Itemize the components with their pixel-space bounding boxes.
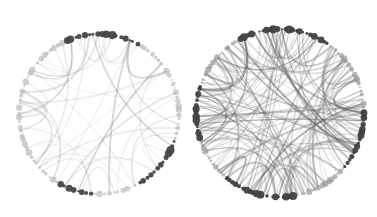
node (275, 26, 281, 32)
node (19, 99, 22, 102)
node (201, 144, 205, 148)
node (16, 105, 22, 111)
node (334, 48, 338, 52)
node (77, 190, 79, 192)
node (176, 107, 182, 113)
node (16, 114, 22, 120)
node (146, 176, 150, 180)
node (84, 191, 88, 195)
node (130, 186, 132, 188)
node (313, 188, 317, 192)
node (219, 53, 221, 55)
node (195, 98, 199, 102)
edge (131, 133, 176, 185)
node (134, 184, 137, 187)
node (150, 52, 155, 57)
node (38, 166, 41, 169)
node (131, 40, 134, 43)
node (194, 103, 199, 108)
node (167, 73, 172, 78)
node (208, 157, 210, 159)
node (265, 194, 268, 197)
node (360, 92, 364, 96)
node (253, 32, 255, 34)
node (156, 58, 160, 62)
node (113, 191, 116, 194)
node (174, 87, 176, 89)
node (202, 78, 205, 81)
node (164, 155, 169, 160)
node (175, 126, 180, 131)
node (159, 62, 163, 66)
figure (0, 0, 377, 217)
node (176, 112, 181, 117)
node (337, 173, 339, 175)
node (107, 191, 112, 196)
node (175, 132, 179, 136)
node (241, 186, 245, 190)
node (88, 33, 91, 36)
node (343, 165, 346, 168)
node (210, 160, 212, 162)
node (114, 34, 118, 38)
node (35, 162, 38, 165)
node (23, 79, 29, 85)
network-graphs (0, 0, 377, 217)
node (96, 191, 103, 198)
node (50, 176, 56, 182)
node (290, 27, 295, 32)
node (346, 161, 350, 165)
node (33, 159, 36, 162)
node (19, 94, 23, 98)
node (20, 134, 25, 139)
node (281, 28, 283, 30)
node (176, 95, 179, 98)
node (302, 31, 304, 33)
circular-network-left (16, 31, 182, 198)
node (79, 189, 85, 195)
node (271, 196, 273, 198)
node (302, 192, 305, 195)
node (171, 82, 176, 87)
node (306, 189, 312, 195)
node (325, 42, 328, 45)
node (363, 120, 365, 122)
node (77, 34, 82, 39)
node (196, 129, 199, 132)
node (36, 61, 39, 64)
node (49, 176, 51, 178)
node (177, 117, 180, 120)
node (116, 190, 119, 193)
node (29, 67, 35, 73)
node (226, 45, 230, 49)
node (221, 51, 223, 53)
node (129, 39, 131, 41)
node (154, 56, 157, 59)
node (121, 188, 126, 193)
node (34, 66, 36, 68)
node (91, 33, 94, 36)
node (177, 123, 179, 125)
node (222, 173, 225, 176)
node (195, 91, 201, 97)
node (27, 76, 29, 78)
node (56, 181, 59, 184)
node (358, 138, 362, 142)
node (67, 36, 75, 44)
node (173, 89, 179, 95)
node (51, 45, 57, 51)
node (207, 155, 209, 157)
node (344, 59, 348, 63)
node (103, 192, 106, 195)
node (174, 137, 177, 140)
node (155, 166, 160, 171)
node (173, 140, 176, 143)
node (123, 36, 129, 42)
node (359, 86, 361, 88)
node (41, 169, 45, 173)
node (18, 125, 23, 130)
node (138, 181, 142, 185)
node (353, 152, 356, 155)
node (66, 185, 73, 192)
node (258, 31, 260, 33)
